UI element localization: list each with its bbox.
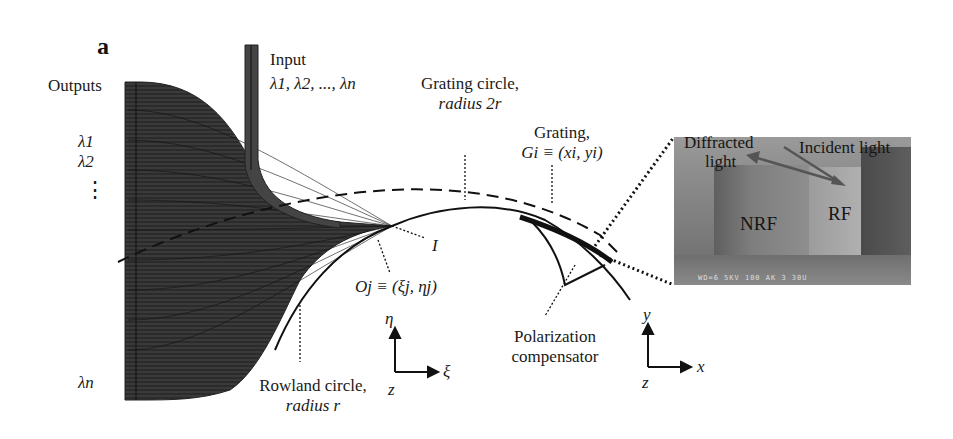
input-label: Input bbox=[270, 50, 306, 70]
global-axes bbox=[643, 324, 691, 372]
grating-label: Grating, Gi ≡ (xi, yi) bbox=[512, 123, 612, 163]
grating-circle-line1: Grating circle, bbox=[410, 74, 530, 94]
local-axes bbox=[390, 328, 438, 377]
output-lambda-n: λn bbox=[78, 373, 94, 393]
echelle-grating-demux-diagram: a Outputs λ1 λ2 ⋮ λn Input λ1, λ2, ..., … bbox=[0, 0, 953, 439]
point-oj-label: Oj ≡ (ξj, ηj) bbox=[355, 277, 437, 297]
eta-axis-label: η bbox=[385, 309, 393, 329]
global-z-label: z bbox=[642, 373, 649, 393]
output-lambda-2: λ2 bbox=[78, 152, 94, 172]
input-wavelengths: λ1, λ2, ..., λn bbox=[270, 74, 356, 94]
sem-nrf-label: NRF bbox=[740, 213, 777, 235]
panel-label: a bbox=[97, 33, 109, 60]
output-ellipsis: ⋮ bbox=[84, 178, 106, 202]
polarization-line1: Polarization bbox=[490, 327, 620, 347]
rowland-line1: Rowland circle, bbox=[248, 376, 378, 396]
xi-axis-label: ξ bbox=[443, 362, 450, 382]
output-lambda-1: λ1 bbox=[78, 132, 94, 152]
polarization-line2: compensator bbox=[490, 347, 620, 367]
point-i-label: I bbox=[432, 236, 438, 256]
grating-circle-line2: radius 2r bbox=[410, 94, 530, 114]
sem-rf-label: RF bbox=[828, 203, 851, 225]
rowland-circle-label: Rowland circle, radius r bbox=[248, 376, 378, 416]
grating-line2: Gi ≡ (xi, yi) bbox=[512, 143, 612, 163]
polarization-compensator-label: Polarization compensator bbox=[490, 327, 620, 367]
x-axis-label: x bbox=[697, 357, 705, 377]
outputs-label: Outputs bbox=[48, 76, 102, 96]
grating-line1: Grating, bbox=[512, 123, 612, 143]
local-z-label: z bbox=[388, 380, 395, 400]
grating-circle-label: Grating circle, radius 2r bbox=[410, 74, 530, 114]
sem-light-label: light bbox=[705, 152, 736, 172]
sem-diffracted-label: Diffracted bbox=[684, 133, 754, 153]
rowland-line2: radius r bbox=[248, 396, 378, 416]
sem-incident-label: Incident light bbox=[799, 138, 890, 158]
y-axis-label: y bbox=[643, 305, 651, 325]
